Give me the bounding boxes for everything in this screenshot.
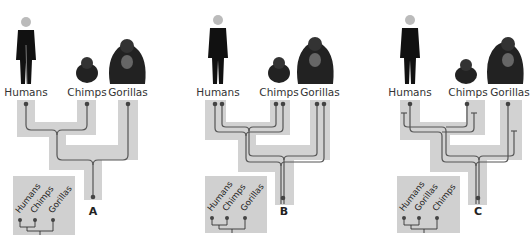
panel-letter: C	[474, 205, 482, 218]
species-label-gorillas: Gorillas	[490, 86, 530, 98]
human-figure-icon	[208, 15, 228, 84]
panel-letter: B	[280, 205, 288, 218]
species-label-gorillas: Gorillas	[300, 86, 340, 98]
panel-b: Humans Chimps Gorillas B Humans Chimps G…	[190, 0, 370, 237]
gorilla-figure-icon	[297, 37, 334, 84]
gorilla-figure-icon	[109, 39, 146, 84]
inset-tree-b: Humans Chimps Gorillas	[205, 176, 267, 233]
human-figure-icon	[16, 17, 36, 84]
species-label-humans: Humans	[388, 86, 431, 98]
species-label-humans: Humans	[4, 86, 47, 98]
species-label-chimps: Chimps	[448, 86, 487, 98]
panel-c: Humans Chimps Gorillas C Humans Gorillas…	[370, 0, 531, 237]
panel-letter: A	[89, 205, 98, 218]
human-figure-icon	[400, 15, 420, 84]
species-label-chimps: Chimps	[259, 86, 298, 98]
chimp-figure-icon	[455, 59, 477, 84]
inset-tree-a: Humans Chimps Gorillas	[13, 176, 75, 235]
chimp-figure-icon	[76, 57, 98, 83]
gorilla-figure-icon	[487, 37, 524, 84]
inset-tree-c: Humans Gorillas Chimps	[397, 176, 460, 233]
chimp-figure-icon	[268, 57, 290, 83]
species-label-gorillas: Gorillas	[108, 86, 148, 98]
species-label-chimps: Chimps	[67, 86, 106, 98]
panel-a: Humans Chimps Gorillas A Humans Chimps G…	[0, 0, 180, 237]
species-label-humans: Humans	[196, 86, 239, 98]
